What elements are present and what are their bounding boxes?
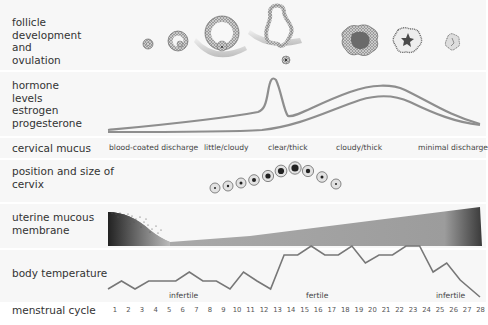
corpus-albicans-icon xyxy=(445,34,459,50)
day-label: 21 xyxy=(382,306,391,314)
follicle-secondary-icon xyxy=(168,31,188,51)
day-label: 13 xyxy=(273,306,282,314)
day-label: 28 xyxy=(476,306,485,314)
day-label: 3 xyxy=(140,306,144,314)
day-label: 10 xyxy=(233,306,242,314)
day-label: 18 xyxy=(341,306,350,314)
day-label: 6 xyxy=(181,306,185,314)
follicle-tertiary-icon xyxy=(194,16,247,57)
day-label: 27 xyxy=(463,306,472,314)
day-label: 12 xyxy=(260,306,269,314)
uterine-membrane xyxy=(108,207,482,246)
corpus-luteum-regressing-icon xyxy=(393,28,421,53)
ovulation-icon xyxy=(248,5,302,64)
day-label: 23 xyxy=(409,306,418,314)
estrogen-curve xyxy=(108,79,480,131)
phase-infertile-late: infertile xyxy=(436,291,465,300)
day-label: 8 xyxy=(208,306,212,314)
day-label: 9 xyxy=(221,306,225,314)
follicle-icons xyxy=(143,5,460,64)
phase-fertile: fertile xyxy=(306,291,328,300)
phase-infertile-early: infertile xyxy=(169,291,198,300)
day-label: 2 xyxy=(126,306,130,314)
day-label: 15 xyxy=(300,306,309,314)
corpus-luteum-icon xyxy=(342,25,378,56)
day-label: 16 xyxy=(314,306,323,314)
hormone-curves xyxy=(108,79,480,133)
follicle-primary-icon xyxy=(143,39,153,49)
day-label: 20 xyxy=(368,306,377,314)
temperature-curve xyxy=(108,246,480,297)
day-label: 24 xyxy=(422,306,431,314)
day-label: 19 xyxy=(355,306,364,314)
day-label: 7 xyxy=(194,306,198,314)
day-label: 11 xyxy=(246,306,255,314)
day-label: 4 xyxy=(153,306,157,314)
day-label: 1 xyxy=(113,306,117,314)
day-label: 17 xyxy=(327,306,336,314)
day-label: 14 xyxy=(287,306,296,314)
day-label: 26 xyxy=(449,306,458,314)
day-label: 22 xyxy=(395,306,404,314)
day-label: 25 xyxy=(436,306,445,314)
day-label: 5 xyxy=(167,306,171,314)
progesterone-curve xyxy=(108,96,480,132)
